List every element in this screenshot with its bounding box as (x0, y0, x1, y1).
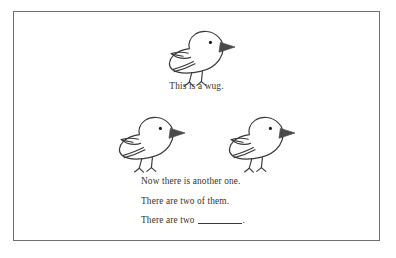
eye-icon (269, 127, 272, 130)
eye-icon (209, 41, 212, 44)
wug-bird-pair-left (112, 111, 196, 175)
blank-prompt-prefix: There are two (141, 215, 195, 225)
answer-blank-field[interactable] (198, 223, 242, 224)
illustration-stage: This is a wug. Now there is another one.… (14, 12, 379, 240)
caption-fill-in-the-blank: There are two. (141, 215, 245, 225)
caption-another-one: Now there is another one. (141, 176, 245, 186)
wug-test-card: This is a wug. Now there is another one.… (13, 11, 380, 241)
caption-two-of-them: There are two of them. (141, 196, 245, 206)
beak-icon (279, 128, 295, 138)
prompt-text-block: Now there is another one. There are two … (141, 176, 245, 235)
eye-icon (159, 127, 162, 130)
bird-drawing-icon (162, 25, 246, 89)
bird-drawing-icon (222, 111, 306, 175)
bird-drawing-icon (112, 111, 196, 175)
wug-bird-pair-right (222, 111, 306, 175)
beak-icon (169, 128, 185, 138)
beak-icon (219, 42, 235, 52)
blank-prompt-suffix: . (243, 215, 245, 225)
wug-bird-single (162, 25, 246, 89)
caption-this-is-a-wug: This is a wug. (14, 81, 379, 91)
